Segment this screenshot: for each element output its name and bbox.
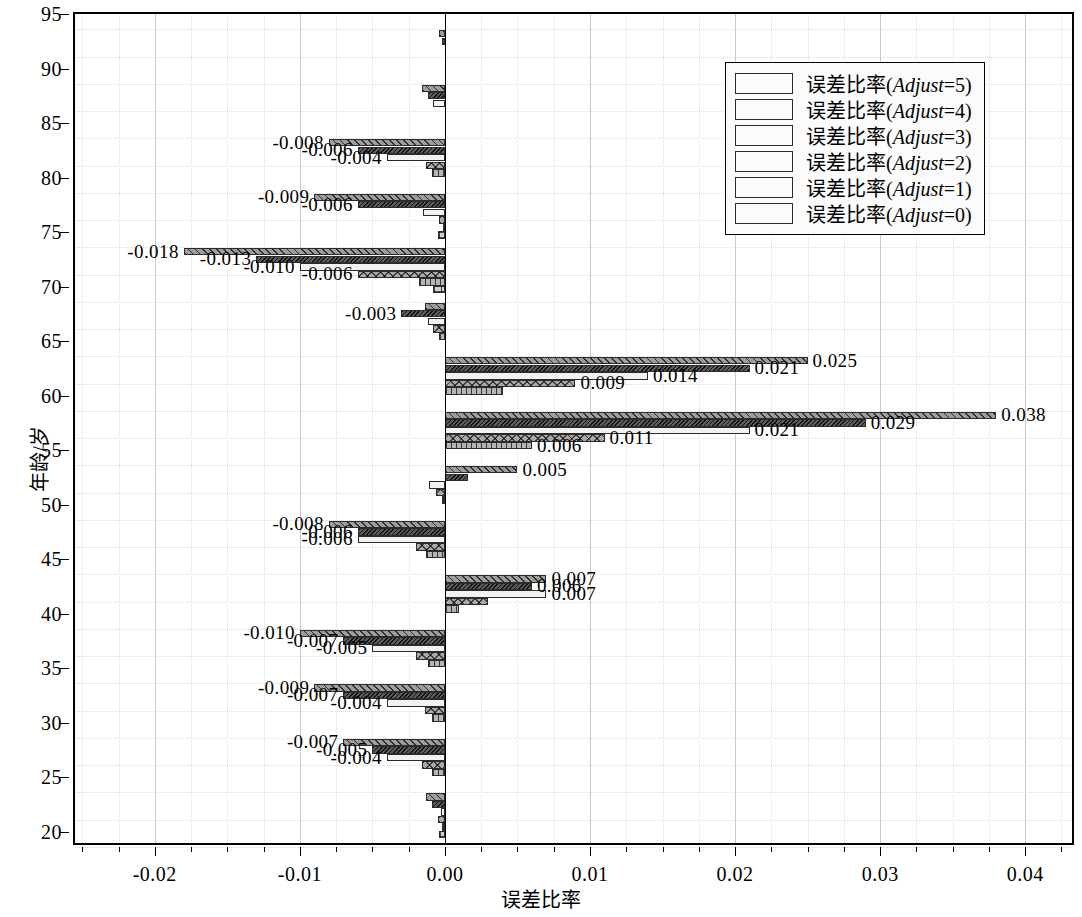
bar [416, 652, 445, 659]
x-axis-tick [771, 847, 772, 852]
x-axis-title: 误差比率 [0, 884, 1082, 913]
x-axis-tick [953, 847, 954, 852]
bar [432, 714, 445, 721]
x-gridline [227, 14, 228, 843]
x-axis-tick-label: -0.01 [278, 863, 322, 886]
bar [425, 707, 445, 714]
y-gridline [75, 329, 1072, 330]
bar [432, 801, 445, 808]
bar [358, 201, 445, 208]
bar-value-label: -0.006 [301, 194, 352, 216]
x-axis-tick-label: -0.02 [133, 863, 177, 886]
x-axis-tick [82, 847, 83, 852]
x-axis-tick-label: 0.04 [1007, 863, 1044, 886]
legend-swatch [735, 203, 793, 224]
bar [445, 357, 808, 364]
legend-item-label: 误差比率(Adjust=5) [806, 69, 972, 98]
y-gridline [75, 465, 1072, 466]
y-axis-title: 年龄/岁 [24, 426, 53, 492]
legend-swatch [735, 99, 793, 120]
x-gridline [1025, 14, 1026, 843]
bar-value-label: -0.004 [330, 147, 381, 169]
bar [358, 536, 445, 543]
x-axis-tick-label: 0.03 [862, 863, 899, 886]
bar [436, 489, 445, 496]
legend: 误差比率(Adjust=5)误差比率(Adjust=4)误差比率(Adjust=… [725, 62, 985, 235]
y-axis-tick-label: 60 [41, 384, 62, 407]
legend-swatch [735, 151, 793, 172]
y-gridline [75, 656, 1072, 657]
y-gridline [75, 547, 1072, 548]
bar-value-label: -0.004 [330, 747, 381, 769]
x-gridline [1061, 14, 1062, 843]
x-axis-tick [372, 847, 373, 852]
bar [419, 278, 445, 285]
y-axis-tick-label: 40 [41, 602, 62, 625]
y-axis-tick-label: 95 [41, 3, 62, 26]
y-gridline [75, 765, 1072, 766]
legend-item-adjust4[interactable]: 误差比率(Adjust=4) [735, 96, 972, 122]
bar [426, 793, 445, 800]
legend-item-adjust3[interactable]: 误差比率(Adjust=3) [735, 122, 972, 148]
x-axis-tick [663, 847, 664, 852]
bar [358, 271, 445, 278]
chart-figure: -0.008-0.006-0.004-0.009-0.006-0.018-0.0… [0, 0, 1082, 917]
x-axis-tick-label: 0.00 [426, 863, 463, 886]
bar-value-label: 0.014 [653, 365, 698, 387]
bar-value-label: -0.006 [301, 263, 352, 285]
bar-value-label: 0.006 [537, 435, 582, 457]
bar [416, 543, 445, 550]
x-axis-tick [227, 847, 228, 852]
bar-value-label: -0.010 [243, 256, 294, 278]
bar-value-label: -0.005 [316, 637, 367, 659]
bar [445, 590, 547, 597]
x-axis-tick [626, 847, 627, 852]
bar [445, 380, 576, 387]
bar [445, 575, 547, 582]
legend-item-adjust0[interactable]: 误差比率(Adjust=0) [735, 200, 972, 226]
legend-item-adjust5[interactable]: 误差比率(Adjust=5) [735, 70, 972, 96]
legend-item-label: 误差比率(Adjust=3) [806, 121, 972, 150]
bar-value-label: 0.007 [551, 583, 596, 605]
bar-value-label: 0.005 [522, 459, 567, 481]
bar [445, 419, 866, 426]
x-axis-tick [517, 847, 518, 852]
legend-swatch [735, 177, 793, 198]
y-axis-tick-label: 20 [41, 820, 62, 843]
legend-item-label: 误差比率(Adjust=2) [806, 147, 972, 176]
bar [428, 92, 445, 99]
x-axis-tick [699, 847, 700, 852]
bar [445, 583, 532, 590]
x-gridline [119, 14, 120, 843]
x-gridline [155, 14, 156, 843]
bar-value-label: 0.009 [581, 372, 626, 394]
x-gridline [264, 14, 265, 843]
bar [428, 660, 445, 667]
bar [423, 209, 445, 216]
y-gridline [75, 683, 1072, 684]
x-axis-tick [336, 847, 337, 852]
x-gridline [82, 14, 83, 843]
bar-value-label: 0.021 [755, 419, 800, 441]
x-axis-tick [481, 847, 482, 852]
y-axis-tick-label: 90 [41, 57, 62, 80]
x-axis-tick-label: 0.01 [572, 863, 609, 886]
bar [433, 286, 445, 293]
x-axis-tick [445, 847, 446, 856]
y-gridline [75, 711, 1072, 712]
legend-item-adjust2[interactable]: 误差比率(Adjust=2) [735, 148, 972, 174]
bar [438, 231, 445, 238]
bar [445, 365, 750, 372]
bar [372, 746, 445, 753]
legend-swatch [735, 125, 793, 146]
x-axis-tick [808, 847, 809, 852]
x-axis-tick [191, 847, 192, 852]
legend-item-adjust1[interactable]: 误差比率(Adjust=1) [735, 174, 972, 200]
y-axis-tick-label: 70 [41, 275, 62, 298]
bar [428, 318, 445, 325]
bar-value-label: 0.038 [1001, 404, 1046, 426]
y-axis-tick-label: 35 [41, 657, 62, 680]
x-gridline [989, 14, 990, 843]
y-axis-tick-label: 80 [41, 166, 62, 189]
y-axis-tick-label: 85 [41, 112, 62, 135]
